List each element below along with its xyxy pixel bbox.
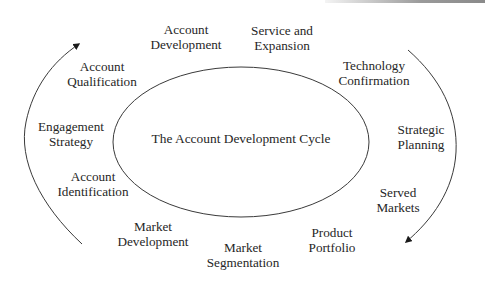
stage-product-portfolio: Product Portfolio (309, 226, 356, 255)
stage-label-line: Strategic (398, 123, 445, 138)
stage-label-line: Qualification (67, 74, 137, 89)
stage-label-line: Account (67, 60, 137, 75)
stage-label-line: Identification (57, 184, 128, 199)
stage-label-line: Development (150, 37, 221, 52)
cycle-title: The Account Development Cycle (152, 131, 331, 147)
stage-account-qualification: Account Qualification (67, 60, 137, 89)
stage-label-line: Served (376, 186, 419, 201)
stage-label-line: Product (309, 226, 356, 241)
stage-label-line: Market (117, 220, 188, 235)
stage-label-line: Development (117, 234, 188, 249)
stage-label-line: Account (150, 23, 221, 38)
stage-label-line: Confirmation (338, 73, 409, 88)
stage-market-development: Market Development (117, 220, 188, 249)
stage-label-line: Markets (376, 200, 419, 215)
stage-label-line: Technology (338, 59, 409, 74)
stage-strategic-planning: Strategic Planning (398, 123, 445, 152)
stage-label-line: Strategy (38, 134, 104, 149)
stage-engagement-strategy: Engagement Strategy (38, 120, 104, 149)
stage-label-line: Expansion (251, 38, 313, 53)
stage-label-line: Account (57, 170, 128, 185)
stage-served-markets: Served Markets (376, 186, 419, 215)
stage-label-line: Engagement (38, 120, 104, 135)
stage-technology-confirmation: Technology Confirmation (338, 59, 409, 88)
stage-label-line: Service and (251, 24, 313, 39)
stage-label-line: Market (207, 241, 280, 256)
stage-service-expansion: Service and Expansion (251, 24, 313, 53)
stage-label-line: Portfolio (309, 240, 356, 255)
stage-market-segmentation: Market Segmentation (207, 241, 280, 270)
stage-label-line: Planning (398, 137, 445, 152)
stage-label-line: Segmentation (207, 255, 280, 270)
stage-account-identification: Account Identification (57, 170, 128, 199)
stage-account-development: Account Development (150, 23, 221, 52)
